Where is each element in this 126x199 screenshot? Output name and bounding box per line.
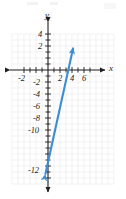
coordinate-plane-figure: y x -2 2 4 6 4 2 -2 -4 -6 -8 -10 -12 — [0, 0, 126, 199]
plotted-line — [45, 48, 73, 175]
y-tick-label-neg4: -4 — [33, 90, 40, 99]
x-tick-label-neg2: -2 — [18, 74, 25, 83]
x-tick-label-2: 2 — [58, 74, 62, 83]
x-tick-label-4: 4 — [70, 74, 74, 83]
graph-canvas — [0, 0, 126, 199]
grid-lines — [12, 34, 114, 184]
y-axis-label: y — [45, 11, 49, 20]
y-tick-label-2: 2 — [38, 42, 42, 51]
x-axis-label: x — [109, 64, 113, 73]
y-tick-label-neg8: -8 — [33, 114, 40, 123]
y-tick-label-4: 4 — [38, 30, 42, 39]
y-tick-label-neg10: -10 — [28, 126, 39, 135]
y-tick-label-neg12: -12 — [28, 166, 39, 175]
y-tick-label-neg6: -6 — [33, 102, 40, 111]
y-tick-label-neg2: -2 — [33, 78, 40, 87]
x-tick-label-6: 6 — [82, 74, 86, 83]
